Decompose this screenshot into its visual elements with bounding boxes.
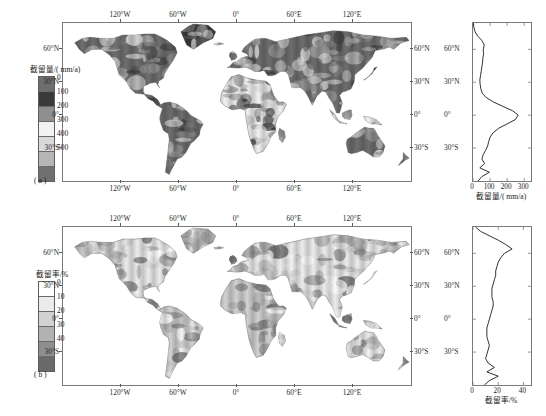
map-a-lon-tick-bot: [178, 180, 179, 183]
profile-b-latlabel: 60°N: [444, 248, 460, 257]
colorbar-a: [38, 76, 55, 182]
map-b-lon-label-bot: 120°W: [109, 388, 130, 397]
map-b-canvas: [63, 227, 411, 385]
map-a-lat-label-right: 30°N: [414, 77, 430, 86]
landmass-texture: [66, 28, 187, 110]
map-a-lon-tick-bot: [294, 180, 295, 183]
figure-root: 截留量/( mm/a) 0100200300400500 ( a ) 01002…: [0, 0, 546, 416]
colorbar-tick-label: 200: [57, 101, 68, 110]
map-a-lat-label-left: 60°N: [29, 44, 59, 53]
map-a-lon-tick-top: [236, 19, 237, 22]
colorbar-b-title: 截留率/%: [36, 268, 68, 279]
landmass-texture: [341, 124, 387, 164]
profile-a-xtick: 0: [470, 183, 474, 191]
landmass-texture: [211, 279, 289, 363]
map-a-frame: [62, 22, 412, 182]
map-a-lon-tick-bot: [236, 180, 237, 183]
map-b-lon-label-top: 0°: [233, 214, 240, 223]
map-b-lat-label-left: 60°N: [29, 248, 59, 257]
map-a-lon-label-top: 120°E: [343, 10, 362, 19]
map-a-lon-label-top: 60°W: [169, 10, 186, 19]
colorbar-segment: [39, 92, 54, 107]
colorbar-tick-label: 100: [57, 87, 68, 96]
profile-b-latlabel: 30°N: [444, 281, 460, 290]
colorbar-segment: [39, 327, 54, 342]
landmass-group: [66, 23, 412, 177]
map-a-lon-label-top: 120°W: [109, 10, 130, 19]
map-b-lon-tick-bot: [294, 384, 295, 387]
map-b-lat-label-left: 30°S: [29, 347, 59, 356]
landmass-texture: [181, 23, 216, 51]
map-a-lon-tick-top: [120, 19, 121, 22]
map-b-lon-label-bot: 60°E: [287, 388, 302, 397]
map-b-lon-tick-bot: [236, 384, 237, 387]
map-b-lon-tick-bot: [178, 384, 179, 387]
map-b-lat-tick-left: [59, 318, 62, 319]
map-b-lat-label-right: 30°S: [414, 347, 428, 356]
panel-b-tag: ( b ): [34, 370, 47, 379]
map-b-lat-tick-right: [410, 318, 413, 319]
profile-b-curve: [473, 227, 531, 385]
map-a-lat-tick-left: [59, 114, 62, 115]
profile-a-latlabel: 30°N: [444, 77, 460, 86]
map-b-lat-tick-left: [59, 351, 62, 352]
colorbar-tick-label: 400: [57, 129, 68, 138]
map-a-canvas: [63, 23, 411, 181]
map-b-lon-label-bot: 120°E: [343, 388, 362, 397]
map-b-lon-label-top: 120°W: [109, 214, 130, 223]
map-a-lon-tick-bot: [120, 180, 121, 183]
map-a-lat-label-right: 30°S: [414, 143, 428, 152]
profile-a-latlabel: 0°: [444, 110, 451, 119]
profile-line: [476, 227, 513, 385]
landmass-texture: [273, 330, 295, 354]
map-b-lat-tick-right: [410, 252, 413, 253]
profile-line: [473, 23, 518, 181]
map-b-lat-tick-right: [410, 351, 413, 352]
profile-a-frame: [472, 22, 532, 182]
map-b-lon-tick-top: [120, 223, 121, 226]
map-b-lon-tick-top: [352, 223, 353, 226]
map-b-lat-tick-left: [59, 285, 62, 286]
map-a-lon-label-bot: 60°E: [287, 184, 302, 193]
map-b-lon-tick-top: [294, 223, 295, 226]
map-a-lon-tick-top: [294, 19, 295, 22]
map-b-lon-tick-top: [236, 223, 237, 226]
profile-b-xaxis-title: 截留率/%: [485, 394, 517, 405]
map-a-lat-tick-right: [410, 147, 413, 148]
map-b-lat-tick-right: [410, 285, 413, 286]
map-b-lon-label-top: 60°W: [169, 214, 186, 223]
map-a-lat-label-right: 60°N: [414, 44, 430, 53]
map-a-lon-label-bot: 60°W: [169, 184, 186, 193]
colorbar-tick-label: 40: [57, 334, 64, 343]
profile-b-xtick: 40: [519, 387, 526, 395]
profile-a-curve: [473, 23, 531, 181]
map-b-lon-label-top: 120°E: [343, 214, 362, 223]
map-b-lon-label-top: 60°E: [287, 214, 302, 223]
map-a-lon-label-top: 60°E: [287, 10, 302, 19]
panel-a-tag: ( a ): [34, 176, 46, 185]
landmass-texture: [391, 152, 411, 171]
colorbar-a-title: 截留量/( mm/a): [30, 63, 80, 74]
map-a-lon-tick-bot: [352, 180, 353, 183]
map-b-lat-label-right: 60°N: [414, 248, 430, 257]
map-b-lat-label-left: 0°: [29, 314, 59, 323]
map-a-lon-label-bot: 0°: [233, 184, 240, 193]
map-b-lon-tick-bot: [120, 384, 121, 387]
landmass-texture: [151, 306, 209, 381]
map-b-lat-label-right: 0°: [414, 314, 421, 323]
map-a-lat-label-left: 0°: [29, 110, 59, 119]
map-b-lon-label-bot: 0°: [233, 388, 240, 397]
map-b-lat-tick-left: [59, 252, 62, 253]
map-b-lat-label-left: 30°N: [29, 281, 59, 290]
map-a-lat-label-right: 0°: [414, 110, 421, 119]
colorbar-segment: [39, 152, 54, 167]
profile-b-frame: [472, 226, 532, 386]
colorbar-segment: [39, 357, 54, 371]
profile-a-xaxis-title: 截留量/( mm/a): [476, 190, 526, 201]
colorbar-segment: [39, 297, 54, 312]
map-a-lon-tick-top: [352, 19, 353, 22]
colorbar-b: [38, 281, 55, 372]
landmass-texture: [213, 69, 291, 160]
map-a-lat-label-left: 30°N: [29, 77, 59, 86]
map-a-lat-tick-right: [410, 114, 413, 115]
